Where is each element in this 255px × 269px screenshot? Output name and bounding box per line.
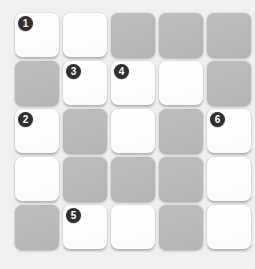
grid-cell-r5c5[interactable] [207, 205, 251, 249]
grid-cell-r3c1[interactable]: 2 [15, 109, 59, 153]
grid-cell-r5c4[interactable] [159, 205, 203, 249]
grid-cell-r4c1[interactable] [15, 157, 59, 201]
grid-cell-r3c2[interactable] [63, 109, 107, 153]
grid-cell-r1c4[interactable] [159, 13, 203, 57]
grid-cell-r2c5[interactable] [207, 61, 251, 105]
grid-cell-r4c4[interactable] [159, 157, 203, 201]
grid-cell-r1c1[interactable]: 1 [15, 13, 59, 57]
cell-marker-3: 3 [66, 64, 81, 79]
grid-cell-r2c1[interactable] [15, 61, 59, 105]
cell-marker-6: 6 [210, 112, 225, 127]
grid-cell-r3c5[interactable]: 6 [207, 109, 251, 153]
cell-marker-2: 2 [18, 112, 33, 127]
grid-cell-r5c2[interactable]: 5 [63, 205, 107, 249]
grid-cell-r2c4[interactable] [159, 61, 203, 105]
grid-cell-r1c2[interactable] [63, 13, 107, 57]
grid-cell-r5c3[interactable] [111, 205, 155, 249]
grid-cell-r3c4[interactable] [159, 109, 203, 153]
cell-marker-4: 4 [114, 64, 129, 79]
grid-cell-r2c2[interactable]: 3 [63, 61, 107, 105]
grid-cell-r1c3[interactable] [111, 13, 155, 57]
grid-cell-r5c1[interactable] [15, 205, 59, 249]
grid-cell-r4c2[interactable] [63, 157, 107, 201]
grid-cell-r4c3[interactable] [111, 157, 155, 201]
grid-cell-r3c3[interactable] [111, 109, 155, 153]
puzzle-grid: 134265 [15, 13, 251, 249]
grid-cell-r2c3[interactable]: 4 [111, 61, 155, 105]
grid-cell-r1c5[interactable] [207, 13, 251, 57]
grid-cell-r4c5[interactable] [207, 157, 251, 201]
cell-marker-1: 1 [18, 16, 33, 31]
cell-marker-5: 5 [66, 208, 81, 223]
